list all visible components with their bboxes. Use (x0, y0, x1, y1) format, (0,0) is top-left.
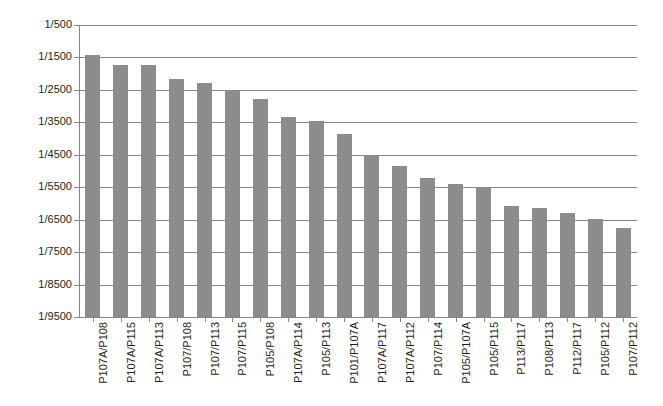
x-axis-tick-label: P107A/P114 (293, 322, 304, 383)
bars-layer (79, 25, 637, 317)
x-axis-tick-label: P112/P117 (572, 322, 583, 375)
x-axis-tick-label: P105/P108 (265, 322, 276, 376)
bar (85, 55, 100, 317)
y-axis-tick-label: 1/7500 (26, 246, 72, 257)
bar (532, 208, 547, 317)
x-axis-tick-label: P107/P114 (433, 322, 444, 376)
x-axis-line (79, 317, 637, 318)
bar (225, 90, 240, 317)
x-axis-tick-label: P107/P115 (237, 322, 248, 376)
bar (588, 219, 603, 317)
y-axis-tick (74, 317, 79, 318)
y-axis-tick (74, 57, 79, 58)
x-axis-tick-label: P107A/P112 (405, 322, 416, 383)
y-axis-tick (74, 155, 79, 156)
x-axis-tick-label: P108/P113 (544, 322, 555, 376)
bar-chart: 1/5001/15001/25001/35001/45001/55001/650… (0, 0, 663, 406)
bar (141, 65, 156, 317)
bar (560, 213, 575, 317)
bar (364, 155, 379, 317)
bar (169, 79, 184, 317)
y-axis-line (79, 25, 80, 317)
x-axis-tick-label: P113/P117 (516, 322, 527, 375)
x-axis-tick-label: P101/P107A (349, 322, 360, 384)
y-axis-tick (74, 187, 79, 188)
y-axis-tick-label: 1/5500 (26, 181, 72, 192)
y-axis-labels: 1/5001/15001/25001/35001/45001/55001/650… (20, 0, 72, 406)
bar (337, 134, 352, 317)
y-axis-tick (74, 285, 79, 286)
bar (616, 228, 631, 317)
x-axis-tick-label: P107A/P108 (98, 322, 109, 384)
bar (113, 65, 128, 317)
y-axis-tick (74, 220, 79, 221)
y-axis-tick (74, 90, 79, 91)
x-axis-tick-label: P105/P115 (489, 322, 500, 376)
x-axis-tick-label: P105/P113 (321, 322, 332, 376)
x-axis-tick-label: P107/P108 (182, 322, 193, 376)
y-axis-tick-label: 1/2500 (26, 84, 72, 95)
y-axis-tick-label: 1/1500 (26, 51, 72, 62)
y-axis-tick-label: 1/8500 (26, 279, 72, 290)
bar (448, 184, 463, 317)
x-axis-tick-label: P107A/P117 (377, 322, 388, 383)
y-axis-tick (74, 122, 79, 123)
bar (392, 166, 407, 317)
y-axis-tick-label: 1/4500 (26, 149, 72, 160)
x-axis-tick-label: P105/P107A (461, 322, 472, 384)
bar (309, 121, 324, 317)
y-axis-tick (74, 252, 79, 253)
bar (504, 206, 519, 317)
bar (420, 178, 435, 317)
x-axis-tick-label: P107/P112 (628, 322, 639, 376)
y-axis-tick-label: 1/9500 (26, 311, 72, 322)
y-axis-tick-label: 1/3500 (26, 116, 72, 127)
bar (197, 83, 212, 317)
bar (476, 187, 491, 317)
x-axis-tick-label: P107A/P115 (126, 322, 137, 383)
x-axis-tick-label: P107A/P113 (154, 322, 165, 383)
bar (281, 117, 296, 317)
x-axis-labels: P107A/P108P107A/P115P107A/P113P107/P108P… (79, 322, 637, 406)
y-axis-tick (74, 25, 79, 26)
bar (253, 99, 268, 317)
x-axis-tick-label: P107/P113 (210, 322, 221, 376)
y-axis-tick-label: 1/6500 (26, 214, 72, 225)
y-axis-tick-label: 1/500 (26, 19, 72, 30)
x-axis-tick-label: P105/P112 (600, 322, 611, 376)
